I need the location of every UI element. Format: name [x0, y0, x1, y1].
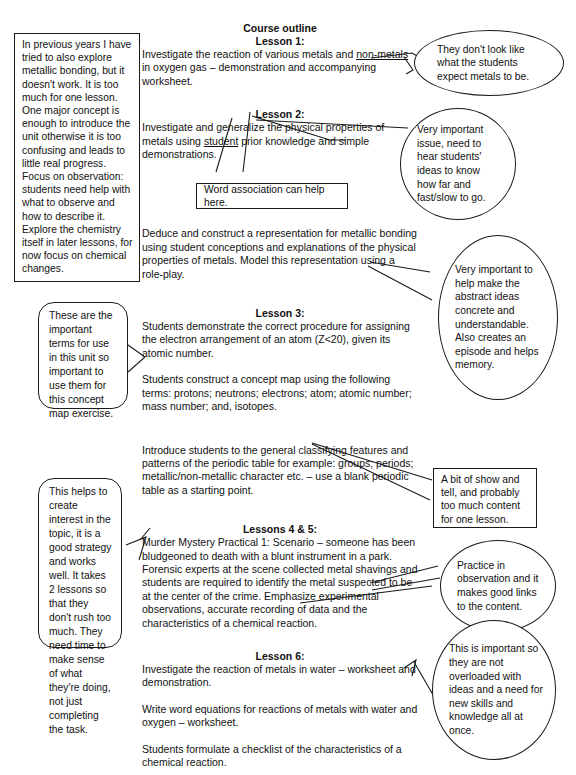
lesson-6-paragraph-2: Write word equations for reactions of me…: [142, 703, 418, 730]
lesson-3-paragraph-2: Students construct a concept map using t…: [142, 373, 418, 413]
diagram-canvas: Course outline Lesson 1: Investigate the…: [0, 0, 576, 775]
note-practice-observation: Practice in observation and it makes goo…: [440, 540, 556, 632]
page-title: Course outline: [142, 22, 418, 35]
note-very-important-issue-text: Very important issue, need to hear stude…: [417, 123, 501, 205]
lesson-6-heading: Lesson 6:: [142, 650, 418, 663]
note-create-interest: This helps to create interest in the top…: [38, 478, 122, 648]
note-word-association: Word association can help here.: [196, 183, 348, 209]
note-dont-look-like-text: They don't look like what the students e…: [437, 43, 545, 84]
lesson-3-paragraph-3: Introduce students to the general classi…: [142, 444, 418, 498]
note-dont-look-like: They don't look like what the students e…: [414, 30, 564, 96]
note-important-terms: These are the important terms for use in…: [38, 302, 128, 409]
lesson-6-paragraph-1: Investigate the reaction of metals in wa…: [142, 663, 418, 690]
note-abstract-concrete: Very important to help make the abstract…: [438, 235, 558, 400]
note-practice-observation-text: Practice in observation and it makes goo…: [457, 559, 543, 613]
lesson-6-paragraph-3: Students formulate a checklist of the ch…: [142, 743, 418, 770]
lesson-2-paragraph-2: Deduce and construct a representation fo…: [142, 227, 418, 281]
lesson-2-heading: Lesson 2:: [142, 108, 418, 121]
lesson-3-paragraph-1: Students demonstrate the correct procedu…: [142, 320, 418, 360]
note-very-important-issue: Very important issue, need to hear stude…: [400, 108, 516, 220]
lesson-1-heading: Lesson 1:: [142, 35, 418, 48]
note-abstract-concrete-text: Very important to help make the abstract…: [455, 263, 545, 372]
underlined-term: non-metals: [356, 48, 408, 60]
note-not-overloaded-text: This is important so they are not overlo…: [449, 642, 545, 737]
note-previous-years: In previous years I have tried to also e…: [14, 33, 140, 282]
lesson-1-paragraph-1: Investigate the reaction of various meta…: [142, 48, 418, 88]
lesson-2-paragraph-1: Investigate and generalize the physical …: [142, 121, 418, 161]
lessons-4-5-paragraph-1: Murder Mystery Practical 1: Scenario – s…: [142, 536, 418, 630]
lesson-3-heading: Lesson 3:: [142, 307, 418, 320]
note-show-and-tell: A bit of show and tell, and probably too…: [433, 468, 537, 528]
lessons-4-5-heading: Lessons 4 & 5:: [142, 523, 418, 536]
note-not-overloaded: This is important so they are not overlo…: [432, 620, 556, 760]
underlined-term: student: [204, 135, 238, 147]
course-outline-column: Course outline Lesson 1: Investigate the…: [142, 22, 418, 769]
